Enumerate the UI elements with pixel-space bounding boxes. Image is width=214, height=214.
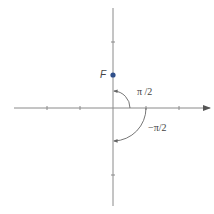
point-f-label: F xyxy=(100,69,106,80)
coordinate-diagram xyxy=(0,0,214,214)
angle-positive-label: π /2 xyxy=(137,86,152,97)
negative-angle-arc xyxy=(114,108,146,141)
positive-angle-arc xyxy=(114,91,130,108)
horizontal-axis xyxy=(14,106,210,110)
angle-negative-label: −π/2 xyxy=(148,122,166,133)
point-f xyxy=(110,72,115,77)
vertical-axis xyxy=(111,8,115,206)
